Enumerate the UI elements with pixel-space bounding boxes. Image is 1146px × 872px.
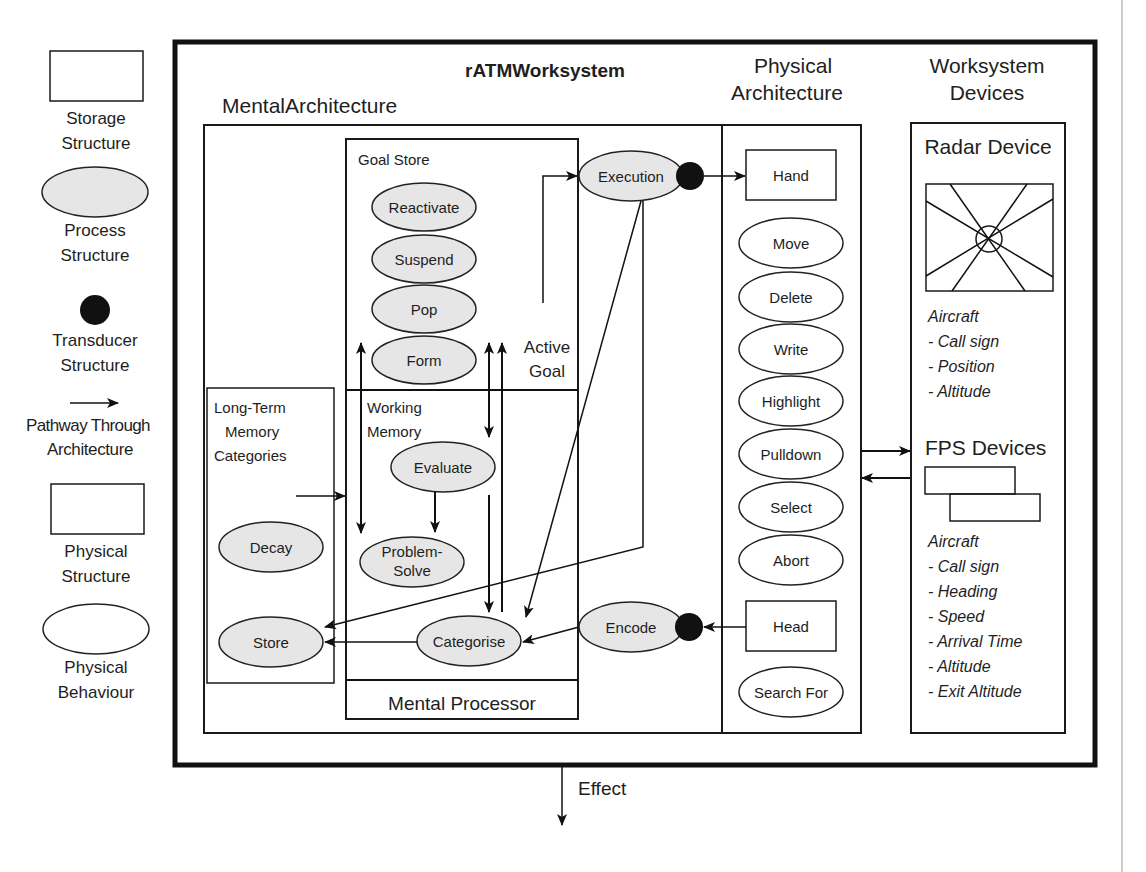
legend-label: Structure [62,134,131,153]
transducer-encode [675,613,703,641]
devices-title: Worksystem [929,54,1044,77]
worksystem-diagram: Storage Structure Process Structure Tran… [0,0,1146,872]
transducer-structure-icon [80,295,110,325]
fps-attribute: - Speed [928,608,985,625]
working-memory-title: Memory [367,423,422,440]
mental-processor-label: Mental Processor [388,693,537,714]
physical-structure-icon [51,484,144,534]
effect-label: Effect [578,778,627,799]
radar-attribute: - Position [928,358,995,375]
radar-attribute: - Call sign [928,333,999,350]
working-memory: Working Memory Evaluate Problem- Solve C… [360,399,521,666]
legend-label: Structure [62,567,131,586]
flight-strip-icon [925,467,1040,521]
behaviour-label: Highlight [762,393,821,410]
behaviour-label: Search For [754,684,828,701]
process-label: Execution [598,168,664,185]
goal-store-title: Goal Store [358,151,430,168]
fps-devices: FPS Devices Aircraft - Call sign - Headi… [925,436,1046,700]
active-goal-label: Active [524,338,570,357]
legend-process-structure: Process Structure [42,167,148,265]
physical-behaviours: Move Delete Write Highlight Pulldown Sel… [739,218,843,717]
legend: Storage Structure Process Structure Tran… [26,51,150,702]
long-term-memory: Long-Term Memory Categories Decay Store [207,388,334,683]
legend-transducer-structure: Transducer Structure [52,295,138,375]
legend-label: Structure [61,356,130,375]
legend-pathway: Pathway Through Architecture [26,403,150,459]
radar-screen-icon [926,184,1053,291]
radar-device: Radar Device Aircraft - Call sign - Posi… [924,135,1053,400]
storage-structure-icon [50,51,143,101]
worksystem-title: rATMWorksystem [465,60,625,81]
fps-attribute: - Arrival Time [928,633,1022,650]
process-label: Evaluate [414,459,472,476]
behaviour-label: Move [773,235,810,252]
legend-label: Process [64,221,125,240]
process-label: Form [407,352,442,369]
behaviour-label: Select [770,499,813,516]
behaviour-label: Write [774,341,809,358]
process-label: Store [253,634,289,651]
legend-label: Pathway Through [26,416,150,435]
legend-physical-behaviour: Physical Behaviour [43,604,149,702]
behaviour-label: Delete [769,289,812,306]
fps-devices-title: FPS Devices [925,436,1046,459]
fps-attribute: Aircraft [927,533,979,550]
working-memory-title: Working [367,399,422,416]
mental-architecture-title: MentalArchitecture [222,94,397,117]
fps-attribute: - Heading [928,583,997,600]
physical-architecture-title: Architecture [731,81,843,104]
legend-label: Behaviour [58,683,135,702]
radar-device-title: Radar Device [924,135,1051,158]
process-label: Pop [411,301,438,318]
process-label: Reactivate [389,199,460,216]
process-label: Encode [606,619,657,636]
physical-behaviour-icon [43,604,149,654]
legend-label: Storage [66,109,126,128]
fps-attribute: - Call sign [928,558,999,575]
process-label: Decay [250,539,293,556]
radar-attribute: Aircraft [927,308,979,325]
devices-title: Devices [950,81,1025,104]
goal-store: Goal Store Reactivate Suspend Pop Form A… [358,151,570,384]
behaviour-label: Pulldown [761,446,822,463]
legend-label: Physical [64,658,127,677]
transducer-execution [676,162,704,190]
fps-attribute: - Exit Altitude [928,683,1022,700]
structure-label: Head [773,618,809,635]
fps-attribute: - Altitude [928,658,991,675]
encode-to-categorise-arrow [523,627,579,642]
legend-label: Physical [64,542,127,561]
process-label: Suspend [394,251,453,268]
legend-physical-structure: Physical Structure [51,484,144,586]
ltm-title: Long-Term [214,399,286,416]
physical-architecture-title: Physical [754,54,832,77]
ltm-title: Categories [214,447,287,464]
active-goal-arrow [543,176,577,303]
legend-label: Transducer [52,331,138,350]
legend-label: Architecture [47,440,133,459]
process-label: Solve [393,562,431,579]
process-structure-icon [42,167,148,217]
active-goal-label: Goal [529,362,565,381]
legend-label: Structure [61,246,130,265]
structure-label: Hand [773,167,809,184]
legend-storage-structure: Storage Structure [50,51,143,153]
behaviour-label: Abort [773,552,810,569]
process-label: Categorise [433,633,506,650]
ltm-title: Memory [225,423,280,440]
radar-attribute: - Altitude [928,383,991,400]
process-label: Problem- [382,543,443,560]
